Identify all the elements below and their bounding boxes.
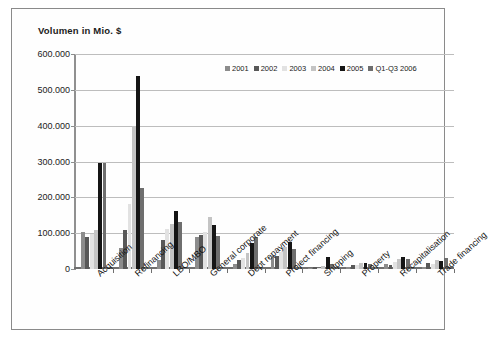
legend-item: 2003 (282, 64, 306, 73)
legend-label: 2003 (289, 64, 306, 73)
y-tick-label: 500.000 (37, 85, 70, 95)
bar (90, 234, 94, 269)
legend-swatch-icon (225, 66, 230, 71)
bar (355, 265, 359, 269)
y-tick-label: 0 (65, 264, 70, 274)
bar (275, 256, 279, 269)
x-tick-mark (454, 269, 455, 273)
legend-item: Q1-Q3 2006 (368, 64, 416, 73)
legend-item: 2002 (254, 64, 278, 73)
legend-label: 2005 (347, 64, 364, 73)
legend-label: 2002 (261, 64, 278, 73)
bar-group (75, 54, 113, 269)
bar (279, 252, 283, 269)
bar (389, 265, 393, 269)
bar (317, 268, 321, 269)
y-tick-label: 200.000 (37, 192, 70, 202)
plot-area (75, 54, 454, 269)
bar (208, 217, 212, 269)
bar-group (378, 54, 416, 269)
bar (85, 237, 89, 269)
bar-group (340, 54, 378, 269)
legend-label: 2004 (318, 64, 335, 73)
chart-legend: 20012002200320042005Q1-Q3 2006 (225, 64, 417, 73)
bar-group (189, 54, 227, 269)
bar (237, 260, 241, 269)
bar-group (113, 54, 151, 269)
legend-item: 2004 (311, 64, 335, 73)
legend-label: Q1-Q3 2006 (375, 64, 416, 73)
bar (212, 225, 216, 269)
bar (241, 258, 245, 269)
bar (103, 163, 107, 269)
bar (313, 267, 317, 269)
bar (128, 204, 132, 269)
legend-swatch-icon (311, 66, 316, 71)
legend-label: 2001 (232, 64, 249, 73)
bar (140, 188, 144, 269)
bar (393, 262, 397, 269)
chart-title: Volumen in Mio. $ (38, 25, 121, 36)
y-tick-label: 600.000 (37, 49, 70, 59)
bar (431, 264, 435, 269)
legend-item: 2001 (225, 64, 249, 73)
legend-swatch-icon (282, 66, 287, 71)
y-tick-label: 400.000 (37, 121, 70, 131)
legend-swatch-icon (340, 66, 345, 71)
x-axis-category-labels: AcquisitionRefinancingLBO/MBOGeneral cor… (75, 271, 454, 341)
y-tick-label: 100.000 (37, 228, 70, 238)
bar-group (151, 54, 189, 269)
bar (98, 163, 102, 269)
y-axis-labels: 600.000500.000400.000300.000200.000100.0… (12, 54, 70, 270)
bar (136, 76, 140, 270)
y-tick-mark (71, 269, 75, 270)
legend-item: 2005 (340, 64, 364, 73)
legend-swatch-icon (254, 66, 259, 71)
y-tick-label: 300.000 (37, 157, 70, 167)
bar (426, 263, 430, 269)
bar (351, 265, 355, 269)
bar (94, 230, 98, 269)
chart-frame: Volumen in Mio. $ 600.000500.000400.0003… (11, 8, 445, 330)
legend-swatch-icon (368, 66, 373, 71)
bar (174, 211, 178, 269)
